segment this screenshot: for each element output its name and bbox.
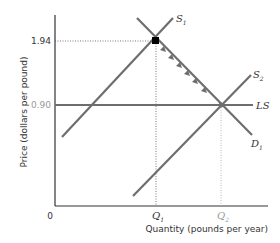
y-tick-0-90: 0.90 [31, 100, 51, 110]
x-tick-q2: Q2 [217, 210, 229, 223]
x-axis-label: Quantity (pounds per year) [145, 224, 268, 234]
ls-label: LS [255, 100, 270, 111]
y-axis-label: Price (dollars per pound) [19, 57, 29, 168]
s2-curve [133, 75, 251, 196]
d1-curve [137, 18, 252, 135]
long-run-equilibrium-point [219, 103, 224, 108]
d1-label: D1 [250, 138, 263, 151]
s2-label: S2 [253, 69, 264, 82]
x-tick-q1: Q1 [152, 210, 164, 223]
s1-label: S1 [176, 13, 187, 26]
price-quantity-chart: Price (dollars per pound) 1.94 0.90 0 Q1… [0, 0, 280, 243]
adjustment-arrows [160, 46, 207, 93]
y-tick-1-94: 1.94 [31, 36, 51, 46]
origin-label: 0 [47, 211, 53, 221]
initial-equilibrium-point [152, 37, 159, 44]
